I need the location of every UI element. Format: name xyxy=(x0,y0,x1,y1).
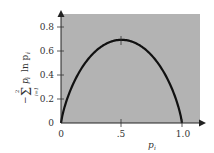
svg-text:−: − xyxy=(20,96,30,104)
y-tick-0: 0 xyxy=(48,118,54,128)
y-tick-0.6: 0.6 xyxy=(40,46,55,56)
svg-text:i: i xyxy=(24,52,31,54)
y-axis-title: − Σ 2 i=1 p i ln p i xyxy=(14,52,39,104)
x-tick-1.0: 1.0 xyxy=(176,129,191,139)
svg-text:Σ: Σ xyxy=(19,87,34,96)
y-tick-0.2: 0.2 xyxy=(40,94,54,104)
y-tick-0.8: 0.8 xyxy=(40,22,55,32)
x-tick-0.5: .5 xyxy=(117,129,126,139)
svg-text:2: 2 xyxy=(14,90,20,93)
y-axis-arrow-icon xyxy=(58,10,65,17)
svg-text:ln p: ln p xyxy=(20,54,30,72)
x-axis-arrow-icon xyxy=(199,120,206,127)
x-tick-0: 0 xyxy=(58,129,64,139)
entropy-chart: 0 0.2 0.4 0.6 0.8 0 .5 1.0 p i − Σ 2 i=1… xyxy=(0,0,214,153)
y-tick-0.4: 0.4 xyxy=(40,70,55,80)
svg-text:i: i xyxy=(24,77,31,79)
svg-text:i: i xyxy=(154,144,156,151)
x-axis-title: p i xyxy=(148,140,156,151)
svg-text:i=1: i=1 xyxy=(33,87,39,96)
